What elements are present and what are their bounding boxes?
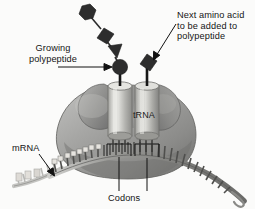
translation-diagram: Growing polypeptide Next amino acid to b… [0,0,255,209]
label-trna: tRNA [133,110,155,121]
amino-acid-hexagon [79,4,96,20]
label-mrna: mRNA [12,143,39,154]
label-next-amino-acid: Next amino acid to be added to polypepti… [177,10,253,42]
label-growing-polypeptide: Growing polypeptide [14,43,92,64]
amino-acid-circle [112,59,127,74]
label-codons: Codons [108,193,140,204]
amino-acid-triangle [108,44,122,58]
amino-acid-diamond [97,28,114,44]
